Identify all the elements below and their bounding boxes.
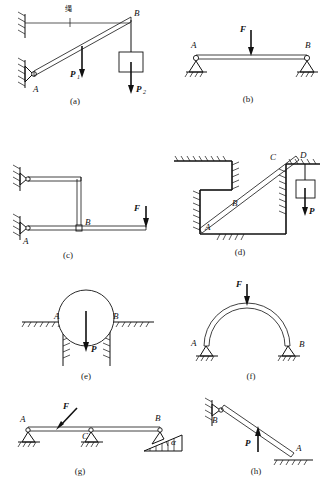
force-p-label: P	[91, 344, 97, 354]
panel-f: F A B (f)	[168, 278, 329, 386]
label-a: A	[53, 311, 60, 321]
label-a: A	[190, 338, 197, 348]
label-a: A	[22, 236, 29, 246]
label-b: B	[212, 415, 218, 425]
rope-label: 绳	[65, 4, 72, 13]
pin-support-b	[278, 346, 300, 361]
pin-support-a	[196, 346, 218, 361]
panel-c: B A F (c)	[0, 158, 165, 266]
panel-g: A C B	[0, 394, 188, 494]
wall-support-top	[18, 12, 25, 38]
panel-h: B A P (h)	[190, 394, 329, 494]
panel-d: A B C D P (d)	[160, 152, 329, 266]
force-f-label: F	[133, 203, 140, 213]
force-f-label: F	[235, 279, 242, 289]
upper-bar	[28, 177, 81, 181]
force-p2-label: P	[136, 84, 142, 94]
force-f-label: F	[239, 24, 246, 34]
force-p2-sub: 2	[143, 89, 146, 95]
panel-e-drawing: A B P	[18, 278, 163, 386]
inclined-bar	[199, 156, 299, 233]
label-b: B	[113, 311, 119, 321]
label-b: B	[232, 198, 238, 208]
caption-a: (a)	[55, 96, 95, 106]
label-b: B	[305, 40, 311, 50]
label-b: B	[85, 217, 91, 227]
label-a: A	[204, 222, 211, 232]
panel-h-drawing: B A P	[190, 394, 329, 494]
label-b: B	[155, 413, 161, 423]
label-c: C	[82, 431, 89, 441]
beam	[28, 427, 160, 431]
force-p-label: P	[309, 206, 315, 216]
force-p-label: P	[245, 438, 251, 448]
caption-c: (c)	[48, 250, 88, 260]
caption-d: (d)	[220, 247, 260, 257]
panel-g-drawing: A C B	[0, 394, 188, 494]
force-p1-label: P	[70, 69, 76, 79]
label-b: B	[299, 339, 305, 349]
label-b: B	[134, 8, 140, 18]
upper-wall-support	[13, 165, 30, 191]
label-a: A	[19, 414, 26, 424]
ground-right	[110, 322, 154, 327]
force-f-arrow	[143, 206, 149, 228]
figure-sheet: 绳 A B P 1	[0, 0, 329, 494]
caption-g: (g)	[60, 466, 100, 476]
label-a: A	[295, 443, 302, 453]
ground-left	[22, 322, 63, 327]
caption-e: (e)	[66, 371, 106, 381]
caption-h: (h)	[236, 466, 276, 476]
panel-a-drawing: 绳 A B P 1	[0, 0, 165, 110]
arch-member	[204, 303, 290, 346]
vertical-link	[76, 177, 82, 231]
label-d: D	[299, 150, 307, 160]
force-f-label: F	[62, 401, 69, 411]
label-c: C	[270, 152, 277, 162]
caption-b: (b)	[228, 94, 268, 104]
force-p1-sub: 1	[77, 74, 80, 80]
panel-f-drawing: F A B	[168, 278, 329, 386]
force-f-arrow	[248, 30, 254, 56]
panel-e: A B P (e)	[18, 278, 163, 386]
panel-a: 绳 A B P 1	[0, 0, 165, 110]
label-a: A	[32, 84, 39, 94]
ground-a	[274, 460, 313, 465]
panel-b: A B F (b)	[165, 0, 329, 110]
caption-f: (f)	[231, 371, 271, 381]
angle-label: α	[171, 437, 176, 447]
beam-ab	[196, 55, 307, 59]
label-a: A	[190, 40, 197, 50]
